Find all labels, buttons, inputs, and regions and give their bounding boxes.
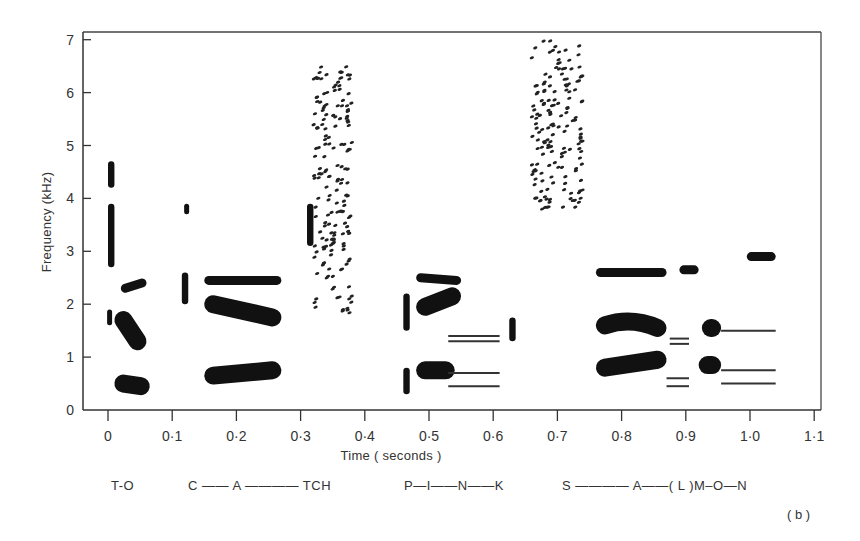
noise-dot: [349, 140, 354, 144]
phoneme-label-to: T-O: [111, 478, 134, 493]
spectrogram-chart: 01234567 00·10·20·30·40·50·60·70·80·91·0…: [0, 0, 860, 541]
formant-band: [213, 370, 272, 375]
y-axis-title: Frequency (kHz): [39, 172, 54, 273]
noise-dot: [543, 72, 548, 76]
noise-dot: [334, 201, 339, 205]
burst-spike: [182, 272, 188, 304]
noise-dot: [323, 127, 328, 131]
noise-dot: [534, 126, 539, 130]
x-tick-label: 0·3: [290, 428, 310, 444]
x-tick-label: 0·1: [162, 428, 182, 444]
burst-spike: [184, 204, 189, 215]
noise-dot: [346, 123, 351, 127]
y-tick-label: 7: [66, 32, 74, 48]
noise-dot: [545, 187, 550, 191]
noise-dot: [552, 98, 557, 102]
noise-dot: [345, 225, 350, 229]
noise-dot: [567, 147, 572, 151]
noise-dot: [569, 191, 574, 195]
formant-band: [425, 296, 452, 307]
noise-dot: [579, 162, 584, 166]
noise-dot: [347, 77, 352, 81]
noise-dot: [342, 221, 347, 225]
noise-dot: [330, 274, 335, 278]
noise-dot: [311, 123, 316, 127]
noise-dot: [563, 48, 568, 52]
noise-dot: [338, 181, 343, 185]
noise-dot: [535, 146, 540, 150]
noise-dot: [341, 199, 346, 203]
noise-dot: [324, 238, 329, 242]
formant-band: [421, 278, 457, 281]
noise-dot: [567, 96, 572, 100]
noise-dot: [324, 185, 329, 189]
noise-dot: [547, 75, 552, 79]
x-tick-label: 0·6: [483, 428, 503, 444]
noise-dot: [312, 255, 317, 259]
burst-spike: [307, 204, 313, 246]
noise-dot: [349, 101, 354, 105]
noise-dot: [565, 124, 570, 128]
noise-dot: [549, 175, 554, 179]
noise-dot: [561, 146, 566, 150]
noise-dot: [573, 205, 578, 209]
noise-dot: [564, 111, 569, 115]
y-tick-label: 3: [66, 243, 74, 259]
noise-dot: [327, 174, 332, 178]
noise-dot: [315, 271, 320, 275]
y-tick-label: 5: [66, 138, 74, 154]
noise-dot: [333, 124, 338, 128]
noise-dot: [327, 267, 332, 271]
noise-dot: [539, 171, 544, 175]
x-axis-title: Time ( seconds ): [340, 448, 441, 463]
noise-dot: [559, 114, 564, 118]
noise-dot: [327, 142, 332, 146]
noise-dot: [530, 172, 535, 176]
y-tick-label: 0: [66, 402, 74, 418]
noise-dot: [573, 115, 578, 119]
noise-dot: [336, 80, 341, 84]
noise-dot: [550, 133, 555, 137]
noise-dot: [533, 177, 538, 181]
noise-dot: [312, 244, 317, 248]
noise-dot: [546, 126, 551, 130]
noise-dot: [335, 104, 340, 108]
formant-band: [123, 384, 140, 387]
phoneme-label-pink: P—I——N——K: [404, 478, 504, 493]
burst-spike: [403, 368, 409, 394]
noise-dot: [548, 39, 553, 43]
noise-dot: [556, 58, 561, 62]
noise-dot: [339, 104, 344, 108]
noise-dot: [338, 117, 343, 121]
noise-dot: [556, 125, 561, 129]
noise-dot: [529, 163, 534, 167]
noise-dot: [578, 196, 583, 200]
plot-frame: [83, 32, 821, 410]
noise-dot: [540, 152, 545, 156]
noise-dot: [547, 84, 552, 88]
formant-band: [605, 360, 658, 368]
noise-dot: [312, 112, 317, 116]
phoneme-label-salmon: S ———— A——( L )M–O—N: [562, 478, 747, 493]
x-tick-label: 0: [104, 428, 112, 444]
noise-dot: [324, 113, 329, 117]
x-tick-label: 0·5: [419, 428, 439, 444]
formant-band: [605, 322, 658, 328]
noise-dot: [532, 108, 537, 112]
noise-dot: [323, 142, 328, 146]
noise-dot: [328, 253, 333, 257]
frication-noise: [311, 39, 585, 315]
y-tick-label: 1: [66, 349, 74, 365]
noise-dot: [535, 162, 540, 166]
noise-dot: [540, 179, 545, 183]
x-tick-label: 0·2: [226, 428, 246, 444]
noise-dot: [340, 232, 345, 236]
noise-dot: [547, 163, 552, 167]
noise-dot: [576, 53, 581, 57]
burst-spike: [108, 204, 114, 267]
formant-band: [125, 283, 142, 288]
noise-dot: [333, 223, 338, 227]
noise-dot: [312, 300, 317, 304]
noise-dot: [340, 98, 345, 102]
x-tick-label: 0·7: [547, 428, 567, 444]
